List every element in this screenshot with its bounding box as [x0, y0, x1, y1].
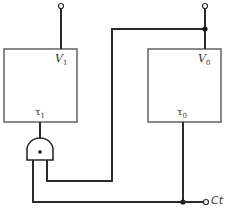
v0-label-sub: 0	[206, 59, 210, 67]
and-gate-icon	[27, 138, 53, 160]
tau1-label-sub: 1	[41, 112, 45, 120]
and-gate-dot-icon	[38, 150, 42, 154]
ct-terminal-icon	[204, 200, 209, 205]
v0-junction-dot-icon	[202, 26, 207, 31]
tau0-label: τ0	[177, 106, 187, 120]
v1-terminal-icon	[59, 4, 64, 9]
v1-label: V1	[55, 52, 67, 67]
ct-label: Ct	[211, 194, 223, 207]
v1-label-sub: 1	[63, 59, 67, 67]
v1-label-main: V	[55, 52, 63, 65]
v0-label-main: V	[198, 52, 206, 65]
v0-terminal-icon	[203, 4, 208, 9]
v0-label: V0	[198, 52, 210, 67]
tau1-label: τ1	[35, 106, 45, 120]
tau0-label-sub: 0	[183, 112, 187, 120]
